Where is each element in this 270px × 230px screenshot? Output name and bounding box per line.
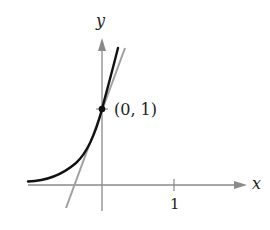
y-axis-arrow-icon	[98, 38, 106, 51]
y-axis-label: y	[96, 11, 105, 30]
x-tick-label-1: 1	[170, 195, 180, 213]
x-axis-label: x	[252, 174, 261, 193]
point-marker	[99, 106, 106, 113]
point-label: (0, 1)	[114, 100, 157, 119]
exponential-curve	[28, 48, 118, 182]
x-axis-arrow-icon	[234, 181, 247, 189]
